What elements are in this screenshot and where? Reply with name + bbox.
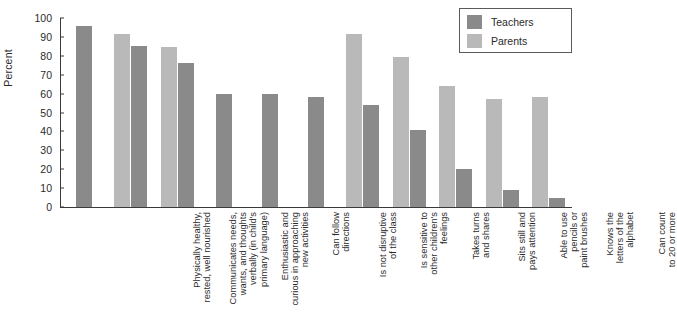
x-category-label: Physically healthy, rested, well nourish… xyxy=(192,212,212,330)
x-category-label: Is sensitive to other children's feeling… xyxy=(419,212,450,330)
bar-teachers xyxy=(178,63,194,207)
legend-swatch-teachers-icon xyxy=(467,15,482,29)
y-tick-label: 60 xyxy=(22,88,52,99)
x-category-label: Sits still and pays attention xyxy=(517,212,537,330)
y-tick-label: 40 xyxy=(22,126,52,137)
legend: Teachers Parents xyxy=(459,8,572,53)
bar-group xyxy=(107,18,153,207)
bar-group xyxy=(247,18,293,207)
legend-item-teachers: Teachers xyxy=(467,14,534,30)
y-tick-label: 70 xyxy=(22,69,52,80)
x-category-label: Is not disruptive of the class xyxy=(378,212,398,330)
bar-group xyxy=(200,18,246,207)
bar-parents xyxy=(114,34,130,207)
bar-group xyxy=(61,18,107,207)
y-axis-title: Percent xyxy=(2,28,14,108)
y-tick-label: 80 xyxy=(22,51,52,62)
bar-teachers xyxy=(503,190,519,207)
bar-teachers xyxy=(131,46,147,207)
x-axis-line xyxy=(60,207,572,208)
bar-group xyxy=(293,18,339,207)
bar-teachers xyxy=(308,97,324,207)
x-category-label: Knows the letters of the alphabet xyxy=(605,212,636,330)
bar-teachers xyxy=(410,130,426,207)
x-category-label: Can follow directions xyxy=(331,212,351,330)
y-tick-label: 10 xyxy=(22,183,52,194)
bar-parents xyxy=(393,57,409,207)
y-tick-label: 0 xyxy=(22,202,52,213)
bar-teachers xyxy=(456,169,472,207)
bar-parents xyxy=(439,86,455,207)
y-tick-label: 50 xyxy=(22,107,52,118)
bar-teachers xyxy=(76,26,92,207)
legend-item-parents: Parents xyxy=(467,33,527,49)
y-tick-label: 90 xyxy=(22,32,52,43)
bar-group xyxy=(154,18,200,207)
y-tick-label: 100 xyxy=(22,13,52,24)
bar-group xyxy=(340,18,386,207)
x-category-label: Enthusiastic and curious in approaching … xyxy=(280,212,311,330)
y-tick-label: 20 xyxy=(22,164,52,175)
bar-parents xyxy=(486,99,502,207)
bar-parents xyxy=(346,34,362,207)
x-category-label: Can count to 20 or more xyxy=(657,212,677,330)
y-tick-label: 30 xyxy=(22,145,52,156)
x-category-label: Takes turns and shares xyxy=(471,212,491,330)
bar-teachers xyxy=(363,105,379,207)
bar-parents xyxy=(532,97,548,207)
bar-teachers xyxy=(262,94,278,207)
bar-teachers xyxy=(216,94,232,207)
bar-teachers xyxy=(549,198,565,207)
x-category-label: Able to use pencils or paint brushes xyxy=(559,212,590,330)
legend-swatch-parents-icon xyxy=(467,34,482,48)
legend-label-teachers: Teachers xyxy=(491,16,534,28)
legend-label-parents: Parents xyxy=(491,35,527,47)
bar-parents xyxy=(161,47,177,207)
x-category-label: Communicates needs, wants, and thoughts … xyxy=(228,212,269,330)
bar-group xyxy=(386,18,432,207)
